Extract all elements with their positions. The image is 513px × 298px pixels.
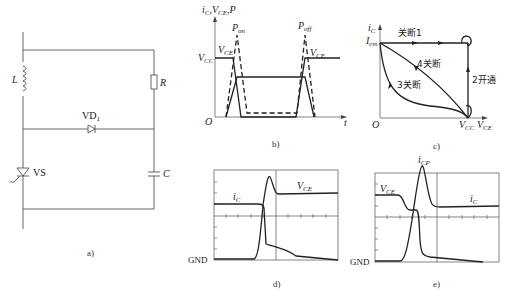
panel-e-oscilloscope: VCE iCP iC GND e) xyxy=(350,154,499,289)
panel-a-circuit: L R VD1 VS C a) xyxy=(10,32,170,258)
ic-label: iC xyxy=(233,191,241,204)
gnd-label: GND xyxy=(188,255,208,265)
diode-icon xyxy=(88,125,95,133)
poff-label: Poff xyxy=(297,20,313,33)
inductor-label: L xyxy=(11,74,18,85)
caption-c: c) xyxy=(433,141,440,151)
gnd-label: GND xyxy=(350,257,370,267)
panel-d-oscilloscope: iC VCE GND d) xyxy=(188,170,338,289)
capacitor-label: C xyxy=(163,168,170,179)
vcc-label: VCC xyxy=(198,52,214,65)
diode-label: VD1 xyxy=(82,110,100,123)
thyristor-icon xyxy=(10,168,29,182)
caption-b: b) xyxy=(272,139,280,149)
vce-label: VCE xyxy=(297,180,313,193)
resistor-icon xyxy=(151,75,157,89)
caption-e: e) xyxy=(433,279,440,289)
path-2-label: 2开通 xyxy=(472,75,496,85)
vce-label: VCE xyxy=(477,119,493,132)
ic-label: iC xyxy=(470,193,478,206)
resistor-label: R xyxy=(159,77,166,88)
path-1-label: 关断1 xyxy=(398,27,422,38)
y-axis-label: iC,VCE,P xyxy=(202,4,236,17)
figure-canvas: L R VD1 VS C a) iC,VCE,P xyxy=(0,0,513,298)
capacitor-icon xyxy=(148,172,160,176)
caption-a: a) xyxy=(87,248,94,258)
vce-left-label: VCE xyxy=(218,44,234,57)
thyristor-label: VS xyxy=(33,167,46,178)
path-3-label: 3关断 xyxy=(397,79,421,90)
path-4-label: 4关断 xyxy=(417,58,441,69)
icm-label: Icm xyxy=(365,35,378,48)
pon-label: Pon xyxy=(231,22,246,35)
vcc-label: VCC xyxy=(459,119,475,132)
panel-c-switching-trajectory: iC Icm O VCC VCE 关断1 2开通 3关断 4关断 c) xyxy=(365,22,496,151)
caption-d: d) xyxy=(273,279,281,289)
y-axis-label: iC xyxy=(368,22,376,35)
x-axis-label: t xyxy=(344,117,347,128)
panel-b-switching-waveform: iC,VCE,P O t VCC VCE VCE Pon Poff b) xyxy=(198,4,347,149)
origin-label: O xyxy=(205,116,212,127)
vce-label: VCE xyxy=(380,183,396,196)
origin-label: O xyxy=(372,119,379,130)
inductor-icon xyxy=(23,62,26,96)
icp-label: iCP xyxy=(418,154,430,167)
